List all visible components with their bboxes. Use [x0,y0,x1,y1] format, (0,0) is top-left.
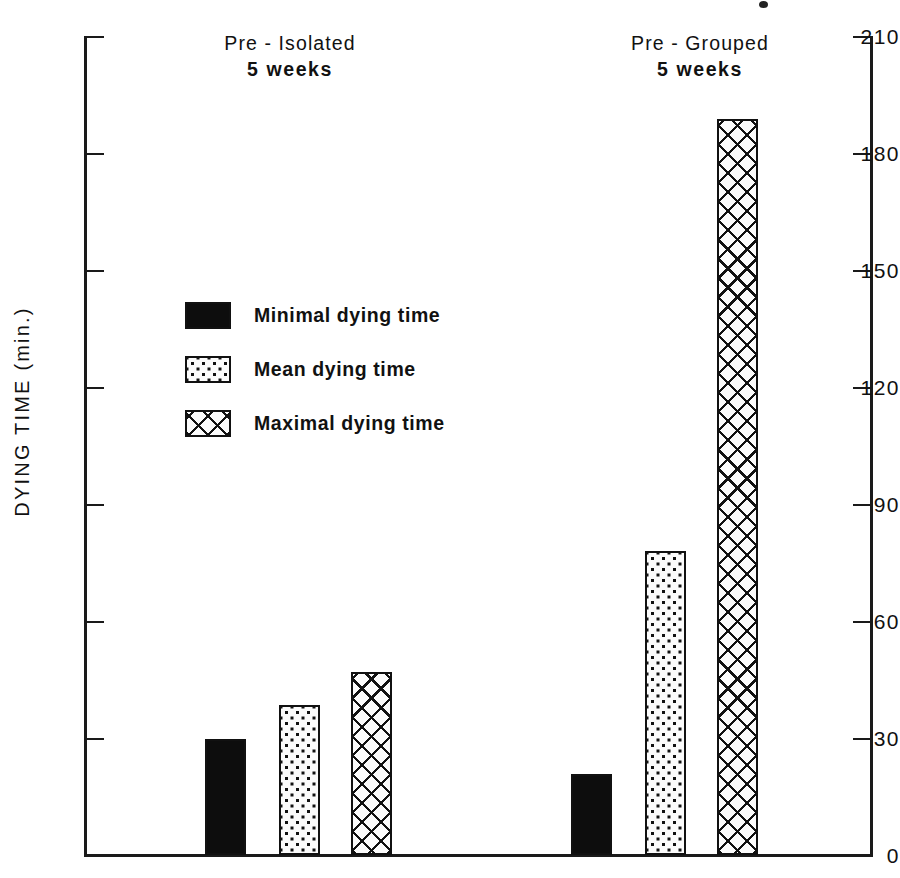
y-tick-label-0: 0 [826,844,900,868]
group-label-line2: 5 weeks [160,56,420,82]
group-label-pre-grouped: Pre - Grouped 5 weeks [570,30,830,82]
bar-g1-crosshatch [717,119,758,856]
legend-row-1: Mean dying time [185,350,445,388]
y-tick-60 [87,621,104,623]
y-tick-label-60: 60 [826,610,900,634]
y-tick-30 [87,738,104,740]
bar-g1-solid [571,774,612,856]
scan-speck [759,1,768,8]
group-label-line1: Pre - Grouped [631,32,769,54]
y-tick-0 [87,855,104,857]
bar-g0-dotted [279,705,320,855]
y-tick-label-150: 150 [826,259,900,283]
y-tick-120 [87,387,104,389]
y-tick-150 [87,270,104,272]
legend-row-2: Maximal dying time [185,404,445,442]
y-axis-left-line [84,36,87,857]
legend-swatch-crosshatch [185,410,231,437]
chart-figure: DYING TIME (min.) 0306090120150180210 Pr… [0,0,900,878]
y-tick-180 [87,153,104,155]
bar-g0-solid [205,739,246,856]
legend: Minimal dying timeMean dying timeMaximal… [185,296,445,458]
y-tick-label-30: 30 [826,727,900,751]
y-tick-label-180: 180 [826,142,900,166]
group-label-pre-isolated: Pre - Isolated 5 weeks [160,30,420,82]
y-tick-210 [87,36,104,38]
legend-label-0: Minimal dying time [254,304,440,327]
y-tick-90 [87,504,104,506]
legend-label-1: Mean dying time [254,358,416,381]
legend-label-2: Maximal dying time [254,412,445,435]
bar-g1-dotted [645,551,686,855]
y-tick-label-120: 120 [826,376,900,400]
y-tick-label-90: 90 [826,493,900,517]
legend-swatch-solid [185,302,231,329]
group-label-line2: 5 weeks [570,56,830,82]
group-label-line1: Pre - Isolated [224,32,355,54]
bar-g0-crosshatch [351,672,392,855]
legend-row-0: Minimal dying time [185,296,445,334]
legend-swatch-dotted [185,356,231,383]
y-axis-title: DYING TIME (min.) [11,202,34,622]
y-tick-label-210: 210 [826,25,900,49]
